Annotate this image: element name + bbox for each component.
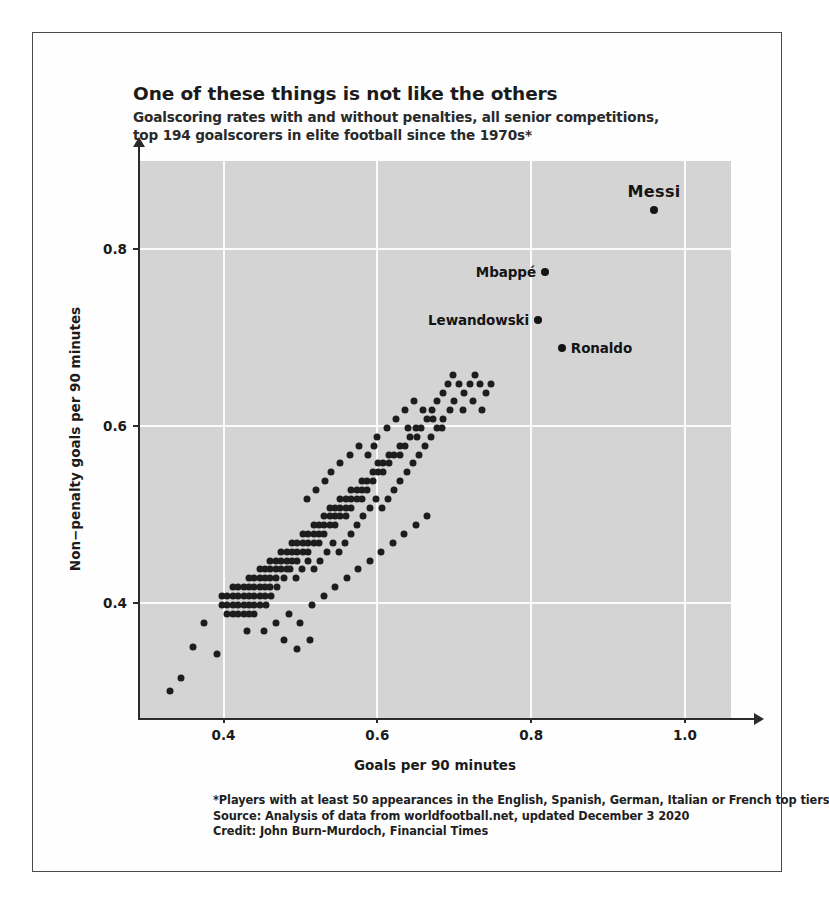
scatter-point — [478, 407, 485, 414]
scatter-point — [412, 522, 419, 529]
scatter-point — [348, 504, 355, 511]
scatter-point — [262, 601, 269, 608]
scatter-point — [450, 371, 457, 378]
scatter-point — [305, 557, 312, 564]
scatter-point — [482, 389, 489, 396]
scatter-point — [409, 460, 416, 467]
y-axis-title: Non−penalty goals per 90 minutes — [67, 307, 83, 571]
scatter-point — [315, 539, 322, 546]
scatter-point — [346, 451, 353, 458]
scatter-point — [402, 442, 409, 449]
scatter-point — [461, 389, 468, 396]
figure-card: One of these things is not like the othe… — [32, 32, 782, 872]
scatter-point — [297, 619, 304, 626]
scatter-point — [428, 407, 435, 414]
y-axis-tick — [133, 425, 138, 427]
chart-subtitle-line-2: top 194 goalscorers in elite football si… — [133, 127, 743, 145]
scatter-point — [396, 451, 403, 458]
scatter-point — [343, 575, 350, 582]
annotation-label: Ronaldo — [571, 340, 632, 356]
x-axis-tick — [684, 718, 686, 723]
scatter-point — [364, 486, 371, 493]
scatter-point — [321, 531, 328, 538]
scatter-point — [401, 531, 408, 538]
gridline-vertical — [684, 161, 686, 718]
scatter-point — [355, 566, 362, 573]
gridline-vertical — [223, 161, 225, 718]
y-axis-tick-label: 0.8 — [103, 241, 127, 257]
footnote-text: *Players with at least 50 appearances in… — [213, 793, 829, 809]
x-axis-tick — [376, 718, 378, 723]
scatter-point — [178, 675, 185, 682]
scatter-point — [389, 539, 396, 546]
scatter-plot: MessiMbappéLewandowskiRonaldo Goals per … — [139, 161, 739, 721]
scatter-point — [366, 504, 373, 511]
scatter-point — [311, 566, 318, 573]
scatter-point — [332, 584, 339, 591]
scatter-point — [294, 557, 301, 564]
x-axis-arrow-icon — [754, 713, 764, 725]
scatter-point — [268, 592, 275, 599]
x-axis-tick — [530, 718, 532, 723]
scatter-point — [371, 442, 378, 449]
annotation-label: Mbappé — [476, 264, 536, 280]
scatter-point — [415, 451, 422, 458]
scatter-point — [260, 628, 267, 635]
scatter-point — [166, 688, 173, 695]
scatter-point — [243, 628, 250, 635]
scatter-point — [422, 442, 429, 449]
scatter-point — [305, 548, 312, 555]
scatter-point — [392, 416, 399, 423]
chart-subtitle-line-1: Goalscoring rates with and without penal… — [133, 109, 743, 127]
scatter-point — [285, 610, 292, 617]
scatter-point — [420, 407, 427, 414]
scatter-point — [365, 451, 372, 458]
scatter-point-highlighted — [558, 344, 566, 352]
scatter-point — [201, 619, 208, 626]
scatter-point — [385, 460, 392, 467]
scatter-point — [348, 531, 355, 538]
scatter-point — [446, 407, 453, 414]
scatter-point — [466, 380, 473, 387]
gridline-vertical — [530, 161, 532, 718]
x-axis-tick-label: 1.0 — [673, 727, 697, 743]
y-axis-tick-label: 0.4 — [103, 595, 127, 611]
x-axis-title: Goals per 90 minutes — [139, 757, 731, 773]
scatter-point-highlighted — [650, 206, 658, 214]
scatter-point — [335, 548, 342, 555]
scatter-point — [397, 478, 404, 485]
y-axis-arrow-icon — [133, 137, 145, 147]
scatter-point — [306, 637, 313, 644]
y-axis-tick-label: 0.6 — [103, 418, 127, 434]
scatter-point — [378, 504, 385, 511]
scatter-point — [380, 469, 387, 476]
scatter-point — [328, 469, 335, 476]
scatter-point — [329, 539, 336, 546]
scatter-point — [434, 398, 441, 405]
scatter-point — [251, 610, 258, 617]
scatter-point-highlighted — [541, 268, 549, 276]
scatter-point — [312, 486, 319, 493]
scatter-point — [320, 592, 327, 599]
scatter-point — [274, 584, 281, 591]
scatter-point — [403, 469, 410, 476]
scatter-point — [292, 575, 299, 582]
scatter-point — [317, 557, 324, 564]
scatter-point — [378, 548, 385, 555]
annotation-label: Messi — [627, 182, 680, 201]
y-axis-line — [138, 145, 140, 719]
scatter-point — [372, 495, 379, 502]
scatter-point — [214, 651, 221, 658]
chart-footer: *Players with at least 50 appearances in… — [213, 793, 829, 840]
scatter-point — [286, 566, 293, 573]
scatter-point — [418, 425, 425, 432]
scatter-point — [411, 398, 418, 405]
scatter-point — [355, 442, 362, 449]
scatter-point — [294, 646, 301, 653]
x-axis-tick — [223, 718, 225, 723]
scatter-point — [391, 486, 398, 493]
gridline-horizontal — [139, 248, 731, 250]
chart-subtitle: Goalscoring rates with and without penal… — [133, 109, 743, 144]
x-axis-tick-label: 0.6 — [365, 727, 389, 743]
scatter-point — [374, 433, 381, 440]
